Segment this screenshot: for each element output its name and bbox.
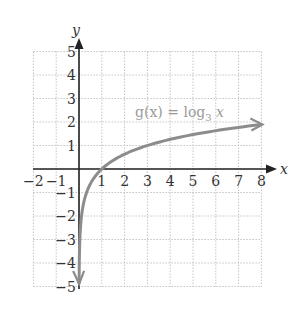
x-tick-label: 6 xyxy=(211,173,220,189)
y-tick-label: −4 xyxy=(55,255,76,271)
x-tick-label: 5 xyxy=(189,173,198,189)
axes: x y xyxy=(33,22,288,289)
y-tick-label: −2 xyxy=(55,208,76,224)
x-tick-label: 2 xyxy=(120,173,129,189)
y-tick-label: −5 xyxy=(55,279,76,295)
x-axis-label: x xyxy=(280,161,288,177)
y-tick-label: 2 xyxy=(67,114,76,130)
x-axis-arrow-icon xyxy=(266,165,277,174)
y-tick-label: 3 xyxy=(67,91,76,107)
function-label-suffix: x xyxy=(212,104,224,120)
y-tick-label: 1 xyxy=(67,138,76,154)
y-axis-label: y xyxy=(71,22,81,38)
y-tick-label: −3 xyxy=(55,232,76,248)
x-tick-label: 1 xyxy=(97,173,106,189)
x-tick-label: −2 xyxy=(23,173,44,189)
function-label-prefix: g(x) = log xyxy=(135,104,205,120)
log-function-graph: x y −2−112345678−5−4−3−2−112345 g(x) = l… xyxy=(0,0,299,311)
x-tick-label: 8 xyxy=(257,173,266,189)
x-tick-label: 3 xyxy=(143,173,152,189)
y-tick-label: 5 xyxy=(67,44,76,60)
x-tick-label: 7 xyxy=(234,173,243,189)
function-label: g(x) = log3 x xyxy=(135,104,224,123)
x-tick-label: 4 xyxy=(166,173,175,189)
y-tick-label: 4 xyxy=(67,67,76,83)
y-tick-label: −1 xyxy=(55,185,76,201)
